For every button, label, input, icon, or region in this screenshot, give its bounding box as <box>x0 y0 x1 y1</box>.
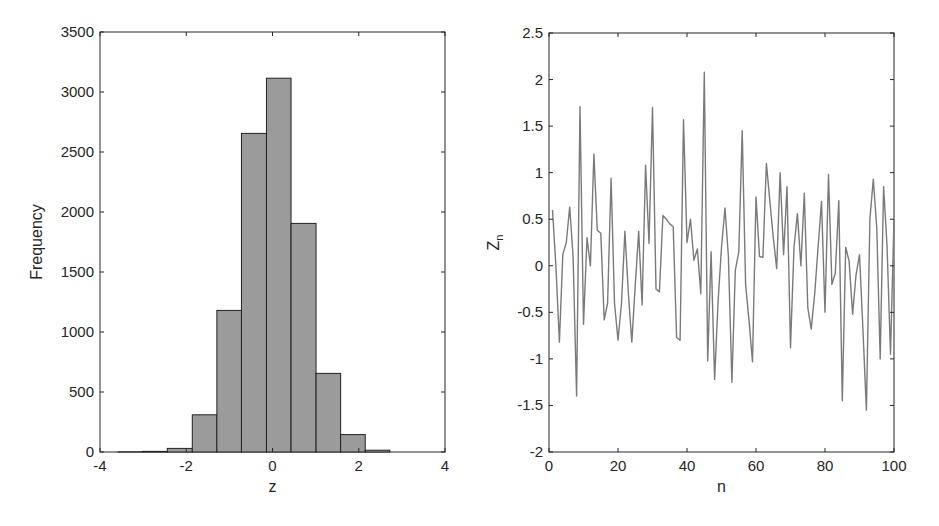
histogram-y-tick-label: 1000 <box>61 323 94 340</box>
histogram-x-tick-label: 2 <box>355 457 363 474</box>
histogram-x-tick-label: -4 <box>93 457 106 474</box>
series-x-tick-label: 20 <box>610 457 627 474</box>
histogram-bar <box>217 310 242 452</box>
histogram-y-axis-label: Frequency <box>28 204 45 280</box>
histogram-x-tick-label: -2 <box>180 457 193 474</box>
histogram-y-tick-label: 3000 <box>61 83 94 100</box>
histogram-bar <box>266 78 291 452</box>
series-x-axis-label: n <box>717 478 726 495</box>
histogram-bar <box>341 435 366 452</box>
series-y-tick-label: 2.5 <box>522 24 543 41</box>
histogram-bar <box>143 451 168 452</box>
histogram-bar <box>316 373 341 452</box>
series-y-tick-label: 0.5 <box>522 210 543 227</box>
histogram-bar <box>241 133 266 452</box>
series-y-tick-label: 0 <box>535 257 543 274</box>
series-y-tick-label: -1.5 <box>517 396 543 413</box>
series-y-axis-label-main: Z <box>485 240 502 250</box>
series-y-tick-label: -2 <box>530 443 543 460</box>
histogram-y-tick-label: 2500 <box>61 143 94 160</box>
histogram-y-tick-label: 0 <box>86 443 94 460</box>
histogram-y-tick-label: 1500 <box>61 263 94 280</box>
series-y-tick-label: 1 <box>535 164 543 181</box>
histogram-x-tick-label: 0 <box>268 457 276 474</box>
series-x-tick-label: 100 <box>881 457 906 474</box>
histogram-x-axis-label: z <box>269 478 277 495</box>
series-y-tick-label: -0.5 <box>517 303 543 320</box>
histogram-bar <box>291 223 316 452</box>
histogram-axes: -4-20240500100015002000250030003500 z Fr… <box>28 23 449 495</box>
series-x-tick-label: 80 <box>817 457 834 474</box>
histogram-y-tick-label: 3500 <box>61 23 94 40</box>
figure: -4-20240500100015002000250030003500 z Fr… <box>0 0 939 526</box>
series-x-tick-label: 0 <box>545 457 553 474</box>
histogram-bar <box>192 415 217 452</box>
histogram-y-tick-label: 500 <box>69 383 94 400</box>
series-y-tick-label: -1 <box>530 350 543 367</box>
series-y-axis-label: Zn <box>485 235 505 251</box>
histogram-y-tick-label: 2000 <box>61 203 94 220</box>
series-x-tick-label: 60 <box>748 457 765 474</box>
histogram-bar <box>167 448 192 452</box>
series-x-tick-label: 40 <box>679 457 696 474</box>
histogram-bar <box>365 450 390 452</box>
series-y-tick-label: 2 <box>535 71 543 88</box>
series-y-tick-label: 1.5 <box>522 117 543 134</box>
series-y-axis-label-subscript: n <box>493 235 505 241</box>
histogram-x-tick-label: 4 <box>441 457 449 474</box>
series-axes: 020406080100-2-1.5-1-0.500.511.522.5 n Z… <box>485 24 907 495</box>
